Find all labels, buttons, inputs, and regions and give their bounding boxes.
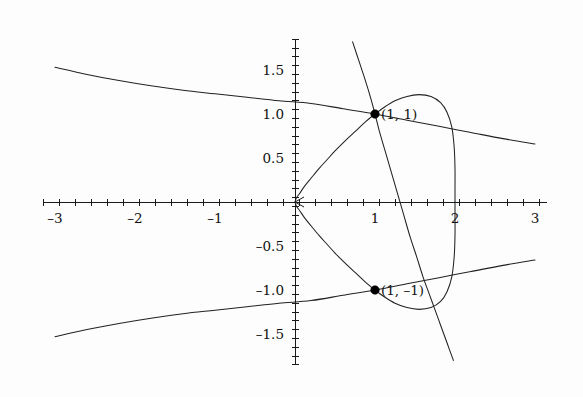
y-tick-label: –1.5 <box>256 326 284 342</box>
data-point-marker <box>371 110 380 119</box>
plot-figure: –3–2–1123 –1.5–1.0–0.50.51.01.5 (1, 1)(1… <box>0 0 583 397</box>
y-tick-label: –0.5 <box>256 238 284 254</box>
y-tick-label: –1.0 <box>256 282 284 298</box>
x-tick-label: –2 <box>127 210 142 226</box>
plot-canvas: –3–2–1123 –1.5–1.0–0.50.51.01.5 (1, 1)(1… <box>0 0 583 397</box>
curve-steep-line <box>353 42 454 361</box>
data-point-label: (1, 1) <box>381 106 417 122</box>
data-point-marker <box>371 286 380 295</box>
x-tick-label: 2 <box>451 210 460 226</box>
data-point-label: (1, –1) <box>381 282 424 298</box>
x-tick-label: 1 <box>371 210 380 226</box>
x-tick-label: –3 <box>47 210 62 226</box>
y-tick-label: 0.5 <box>263 150 284 166</box>
x-tick-label: –1 <box>207 210 222 226</box>
y-tick-label: 1.5 <box>263 62 284 78</box>
x-tick-label: 3 <box>531 210 540 226</box>
y-tick-label: 1.0 <box>263 106 284 122</box>
